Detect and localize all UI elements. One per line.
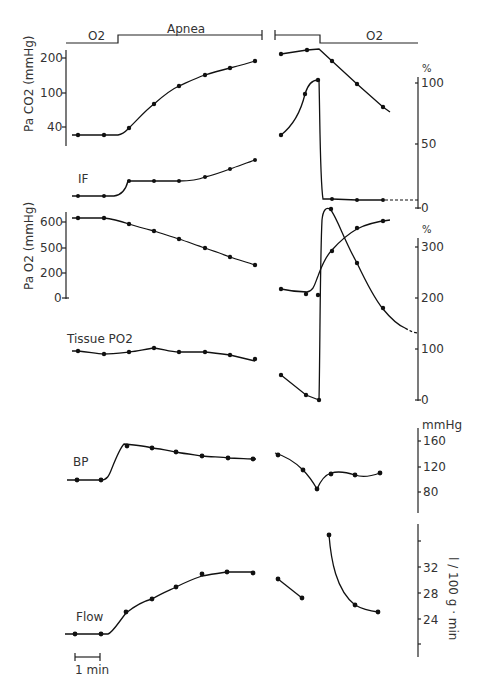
flow-panel: Flow 32 28 24 l / 100 g · min [65,524,460,657]
pct2-axis: % 300 200 100 0 [415,224,444,407]
unit-label: % [422,63,432,74]
tick-label: 50 [421,137,436,151]
tick-label: 0 [421,393,429,407]
phase-o2-left: O2 [88,29,105,43]
tick-label: 160 [423,434,446,448]
tick-label: 0 [421,201,429,215]
unit-label: % [422,224,432,235]
tick-label: 100 [421,342,444,356]
tick-label: 200 [421,291,444,305]
phase-bar: O2 Apnea O2 [66,22,418,43]
tick-label: 500 [40,241,63,255]
tick-label: 300 [421,240,444,254]
tick-label: 24 [423,613,438,627]
paco2-panel: 200 100 40 Pa CO2 (mmHg) [22,35,390,146]
bp-label: BP [73,455,88,469]
if-panel: IF [72,78,418,202]
tick-label: 40 [47,120,62,134]
phase-o2-right: O2 [366,29,383,43]
tick-label: 100 [421,76,444,90]
pao2-axis-label: Pa O2 (mmHg) [22,202,36,290]
tick-label: 600 [40,215,63,229]
tick-label: 120 [423,460,446,474]
tick-label: 200 [40,51,63,65]
tick-label: 100 [40,86,63,100]
tissue-po2-panel: Tissue PO2 [66,332,321,402]
tick-label: 32 [423,561,438,575]
scale-bar: 1 min [75,653,109,677]
if-label: IF [78,172,89,186]
flow-label: Flow [76,610,104,624]
unit-label: mmHg [422,418,462,432]
tick-label: 28 [423,587,438,601]
tick-label: 80 [423,485,438,499]
tick-label: 0 [54,291,62,305]
tissue-po2-label: Tissue PO2 [66,332,133,346]
apnea-figure: O2 Apnea O2 200 100 40 Pa CO2 (mmHg) % 1… [0,0,477,691]
paco2-axis-label: Pa CO2 (mmHg) [22,35,36,132]
tick-label: 200 [40,266,63,280]
phase-apnea: Apnea [167,22,205,36]
if-axis: % 100 50 0 [415,63,444,215]
pao2-panel: 600 500 200 0 Pa O2 (mmHg) [22,202,418,400]
bp-panel: BP mmHg 160 120 80 [67,418,462,513]
flow-unit-label: l / 100 g · min [446,557,460,640]
scale-bar-label: 1 min [75,663,109,677]
